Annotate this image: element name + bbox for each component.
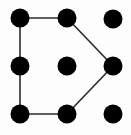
pattern-dot-r0c2[interactable] — [104, 10, 123, 29]
pattern-dot-r1c2[interactable] — [104, 57, 123, 76]
path-segment — [67, 66, 113, 114]
pattern-dot-r0c0[interactable] — [11, 9, 30, 28]
pattern-dot-r1c0[interactable] — [11, 57, 30, 76]
pattern-dot-r1c1[interactable] — [58, 57, 77, 76]
pattern-dots — [11, 9, 123, 124]
pattern-dot-r2c1[interactable] — [58, 105, 77, 124]
pattern-dot-r0c1[interactable] — [58, 9, 77, 28]
pattern-grid[interactable] — [0, 0, 131, 135]
pattern-lock[interactable] — [0, 0, 131, 135]
pattern-dot-r2c0[interactable] — [11, 105, 30, 124]
pattern-dot-r2c2[interactable] — [104, 105, 123, 124]
